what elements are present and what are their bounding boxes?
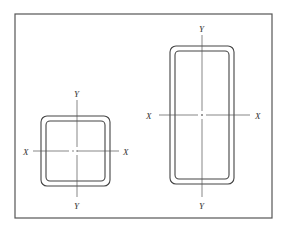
square-x-left-label: X (22, 147, 29, 157)
rect-y-bottom-label: Y (199, 201, 205, 211)
square-tube-section: X X Y Y (22, 89, 129, 211)
rect-y-top-label: Y (199, 24, 205, 34)
rect-x-right-label: X (254, 111, 261, 121)
rect-x-left-label: X (145, 111, 152, 121)
square-x-right-label: X (122, 147, 129, 157)
square-y-bottom-label: Y (74, 201, 80, 211)
square-y-top-label: Y (74, 89, 80, 99)
tube-sections-diagram: X X Y Y X X Y Y (0, 0, 284, 229)
rectangular-tube-section: X X Y Y (145, 24, 261, 211)
